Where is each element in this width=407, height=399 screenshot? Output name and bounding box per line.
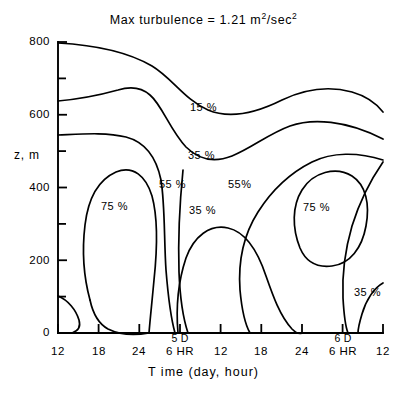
contour-plot-area bbox=[0, 0, 407, 399]
contour-curve-15-percent bbox=[58, 43, 383, 115]
y-axis-ticks bbox=[58, 42, 67, 297]
contour-curve-75-percent-left-cell bbox=[84, 170, 157, 333]
contour-curve-55-percent-right bbox=[240, 154, 383, 333]
turbulence-contour-figure: Max turbulence = 1.21 m2/sec2 z, m T ime… bbox=[0, 0, 407, 399]
contour-curve-right-edge-lower bbox=[358, 283, 383, 333]
axis-spines bbox=[58, 42, 383, 333]
contour-curve-35-percent-left-descent bbox=[179, 170, 188, 333]
contour-curve-surface-bulge-left bbox=[58, 296, 80, 333]
contour-curve-55-percent-left bbox=[58, 134, 175, 333]
contour-curve-75-percent-right-cell bbox=[294, 171, 367, 266]
contour-curve-35-percent-upper bbox=[58, 88, 383, 160]
contour-curves bbox=[58, 43, 383, 334]
